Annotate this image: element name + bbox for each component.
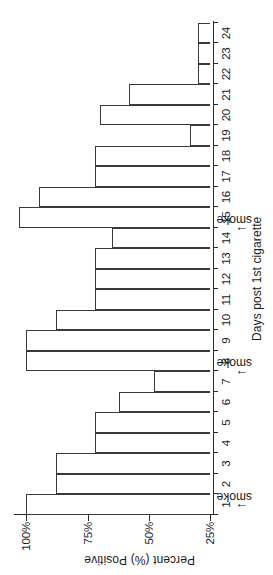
x-tick-label: 20: [220, 109, 232, 121]
bar: [26, 495, 210, 516]
smoke-label: smoke: [217, 358, 252, 370]
x-tick-label: 5: [220, 420, 232, 426]
x-tick-label: 16: [220, 191, 232, 203]
x-tick: [213, 43, 218, 44]
smoke-label: smoke: [217, 491, 252, 503]
x-tick: [213, 104, 218, 105]
x-tick: [213, 371, 218, 372]
y-tick-label: 50%: [143, 522, 155, 544]
bar: [198, 23, 210, 44]
x-tick: [213, 227, 218, 228]
x-tick: [213, 166, 218, 167]
x-tick-label: 7: [220, 379, 232, 385]
x-tick: [213, 391, 218, 392]
x-tick: [213, 145, 218, 146]
x-tick-label: 9: [220, 338, 232, 344]
bar: [95, 413, 210, 434]
bar: [39, 187, 211, 208]
x-axis-title: Days post 1st cigarette: [250, 217, 264, 341]
bar: [100, 105, 210, 126]
x-tick: [213, 514, 218, 515]
x-tick-label: 22: [220, 68, 232, 80]
x-tick: [213, 84, 218, 85]
bar: [95, 146, 210, 167]
x-tick-label: 11: [220, 294, 232, 305]
x-tick: [213, 207, 218, 208]
rotated-figure-frame: 25%50%75%100% 12345678910111213141516171…: [0, 0, 273, 575]
bar: [95, 433, 210, 454]
bar: [198, 64, 210, 85]
bar: [95, 269, 210, 290]
x-tick: [213, 412, 218, 413]
x-tick-label: 17: [220, 171, 232, 183]
bar: [19, 208, 210, 229]
x-tick-label: 21: [220, 89, 232, 101]
x-tick: [213, 453, 218, 454]
x-tick-label: 24: [220, 27, 232, 39]
x-tick-label: 6: [220, 399, 232, 405]
y-tick-label: 75%: [82, 522, 94, 544]
bar: [26, 351, 210, 372]
x-tick-label: 4: [220, 440, 232, 446]
bar: [119, 392, 210, 413]
bar: [154, 372, 210, 393]
x-tick: [213, 248, 218, 249]
y-tick: [149, 515, 150, 521]
bar: [129, 85, 210, 106]
bar: [95, 167, 210, 188]
x-tick: [213, 473, 218, 474]
x-tick: [213, 125, 218, 126]
x-tick: [213, 186, 218, 187]
y-tick: [26, 515, 27, 521]
x-tick-label: 23: [220, 48, 232, 60]
x-tick-label: 12: [220, 273, 232, 285]
x-tick-label: 10: [220, 314, 232, 326]
smoke-label: smoke: [217, 214, 252, 226]
x-tick-label: 3: [220, 461, 232, 467]
x-tick-label: 18: [220, 150, 232, 162]
x-tick-label: 19: [220, 130, 232, 142]
bar: [26, 331, 210, 352]
bar: [56, 310, 210, 331]
x-tick: [213, 432, 218, 433]
bar-chart: 25%50%75%100% 12345678910111213141516171…: [0, 0, 273, 575]
bar: [56, 454, 210, 475]
y-tick-label: 25%: [204, 522, 216, 544]
x-tick-label: 14: [220, 232, 232, 244]
x-tick: [213, 309, 218, 310]
x-tick: [213, 268, 218, 269]
bar: [95, 290, 210, 311]
x-tick: [213, 350, 218, 351]
bar: [95, 249, 210, 270]
x-tick-label: 2: [220, 481, 232, 487]
y-tick: [210, 515, 211, 521]
bar: [56, 474, 210, 495]
bar: [190, 126, 210, 147]
x-tick: [213, 330, 218, 331]
x-tick: [213, 22, 218, 23]
bar: [198, 44, 210, 65]
y-tick: [88, 515, 89, 521]
y-axis-title: Percent (%) Positive: [84, 553, 195, 567]
x-tick: [213, 289, 218, 290]
y-tick-label: 100%: [20, 522, 32, 551]
x-tick-label: 13: [220, 253, 232, 265]
x-tick: [213, 63, 218, 64]
bar: [112, 228, 210, 249]
plot-area: [14, 23, 210, 515]
